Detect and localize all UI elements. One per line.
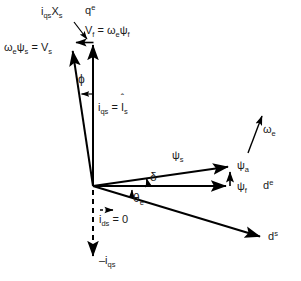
label-de-axis: de: [263, 180, 273, 191]
label-neg-iqs: –iqs: [99, 255, 115, 266]
label-ds-axis: ds: [268, 231, 278, 242]
omega-e-arrow-line: [248, 116, 262, 153]
label-omega-e: ωe: [263, 124, 276, 135]
label-phi-angle: ϕ: [78, 73, 85, 85]
label-psi-f: ψf: [237, 181, 247, 192]
label-ids-zero: ids = 0: [99, 214, 128, 225]
label-iqs-xs: iqsXs: [41, 6, 62, 17]
label-delta-angle: δ: [150, 171, 157, 183]
theta-e-angle-arc: [131, 190, 132, 198]
delta-angle-arc: [147, 179, 149, 187]
label-qe-axis: qe: [85, 5, 95, 16]
label-psi-a: ψa: [237, 160, 249, 171]
label-psi-s: ψs: [172, 150, 184, 161]
phasor-diagram: iqsXs qe Vf = ωeψf ωeψs = Vs ϕ iqs = ˆIs…: [0, 0, 301, 281]
psi-s-vector-line: [93, 167, 228, 186]
label-vs-equation: ωeψs = Vs: [4, 42, 52, 53]
label-iqs-equation: iqs = ˆIs: [98, 102, 128, 113]
label-theta-e-angle: θe: [133, 192, 144, 204]
ds-axis-line: [93, 186, 260, 237]
hat-accent: ˆ: [121, 94, 124, 104]
label-vf-equation: Vf = ωeψf: [85, 25, 130, 36]
